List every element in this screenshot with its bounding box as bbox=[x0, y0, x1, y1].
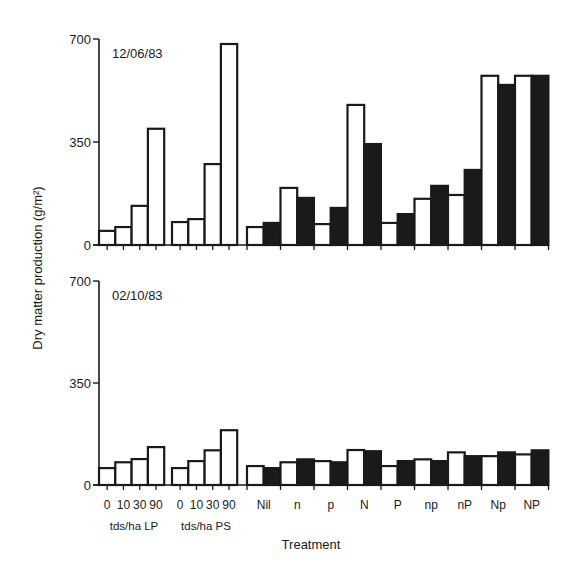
y-tick-label: 0 bbox=[84, 478, 91, 493]
bar-np-open bbox=[415, 459, 432, 485]
bar-P-open bbox=[381, 223, 398, 245]
y-tick-label: 350 bbox=[69, 135, 91, 150]
bar-Np-open bbox=[482, 76, 499, 245]
treatment-label-Np: Np bbox=[491, 498, 507, 512]
treatment-label-Nil: Nil bbox=[257, 498, 271, 512]
bar-Np-filled bbox=[498, 452, 515, 485]
bar-np-open bbox=[415, 199, 432, 245]
treatment-label-nP: nP bbox=[457, 498, 472, 512]
treatment-label-np: np bbox=[425, 498, 439, 512]
bar-rate-tdshaps-10 bbox=[188, 219, 204, 245]
bar-np-filled bbox=[431, 461, 448, 485]
y-axis-label: Dry matter production (g/m²) bbox=[30, 186, 45, 349]
bar-n-open bbox=[281, 188, 298, 245]
bar-rate-tdshaps-30 bbox=[205, 164, 221, 245]
rate-tick-label: 30 bbox=[206, 498, 220, 512]
top-panel: 035070012/06/83 bbox=[69, 32, 548, 253]
bar-P-filled bbox=[398, 461, 415, 485]
bar-n-filled bbox=[297, 459, 314, 485]
bar-rate-tdshalp-0 bbox=[99, 468, 115, 485]
rate-tick-label: 90 bbox=[222, 498, 236, 512]
rate-tick-label: 30 bbox=[133, 498, 147, 512]
bar-N-open bbox=[348, 105, 365, 245]
group-label-lp: tds/ha LP bbox=[110, 520, 159, 532]
bar-P-open bbox=[381, 466, 398, 485]
bar-p-open bbox=[314, 461, 331, 485]
bar-Np-filled bbox=[498, 85, 515, 245]
bar-NP-filled bbox=[532, 450, 549, 485]
bar-N-filled bbox=[364, 144, 381, 245]
rate-tick-label: 0 bbox=[177, 498, 184, 512]
bar-p-filled bbox=[331, 462, 348, 485]
bar-nP-filled bbox=[465, 456, 482, 485]
panel-date-label: 02/10/83 bbox=[112, 288, 163, 303]
x-axis-title: Treatment bbox=[282, 537, 341, 552]
bar-rate-tdshaps-30 bbox=[205, 450, 221, 485]
bar-nP-open bbox=[448, 195, 465, 245]
bar-rate-tdshaps-90 bbox=[221, 44, 237, 245]
bar-rate-tdshaps-90 bbox=[221, 430, 237, 485]
bar-Np-open bbox=[482, 456, 499, 485]
y-tick-label: 350 bbox=[69, 376, 91, 391]
bar-NP-open bbox=[515, 76, 532, 245]
bar-nP-open bbox=[448, 452, 465, 485]
bar-n-open bbox=[281, 462, 298, 485]
treatment-label-P: P bbox=[394, 498, 402, 512]
y-tick-label: 0 bbox=[84, 238, 91, 253]
bar-rate-tdshalp-90 bbox=[148, 447, 164, 485]
group-label-ps: tds/ha PS bbox=[181, 520, 231, 532]
bar-N-open bbox=[348, 450, 365, 485]
treatment-label-n: n bbox=[294, 498, 301, 512]
bar-N-filled bbox=[364, 451, 381, 485]
bar-n-filled bbox=[297, 198, 314, 245]
panel-date-label: 12/06/83 bbox=[112, 46, 163, 61]
bottom-panel: 035070002/10/83 bbox=[69, 274, 548, 493]
bar-NP-filled bbox=[532, 76, 549, 245]
bar-rate-tdshalp-10 bbox=[115, 227, 131, 245]
bar-P-filled bbox=[398, 214, 415, 245]
bar-p-filled bbox=[331, 208, 348, 245]
bar-rate-tdshalp-30 bbox=[132, 206, 148, 245]
rate-tick-label: 90 bbox=[149, 498, 163, 512]
bar-rate-tdshalp-10 bbox=[115, 462, 131, 485]
bar-rate-tdshaps-0 bbox=[172, 468, 188, 485]
bar-p-open bbox=[314, 224, 331, 245]
bar-np-filled bbox=[431, 186, 448, 245]
treatment-label-NP: NP bbox=[523, 498, 540, 512]
rate-tick-label: 10 bbox=[190, 498, 204, 512]
bar-Nil-open bbox=[247, 227, 264, 245]
treatment-label-N: N bbox=[360, 498, 369, 512]
y-tick-label: 700 bbox=[69, 274, 91, 289]
bar-nP-filled bbox=[465, 170, 482, 245]
dry-matter-figure: 035070012/06/83 035070002/10/83 01030900… bbox=[0, 0, 576, 577]
bar-Nil-filled bbox=[264, 223, 281, 245]
bar-rate-tdshalp-30 bbox=[132, 459, 148, 485]
bar-rate-tdshaps-10 bbox=[188, 461, 204, 485]
bar-NP-open bbox=[515, 454, 532, 485]
x-axis-labels: 01030900103090tds/ha LPtds/ha PSNilnpNPn… bbox=[104, 498, 540, 532]
bar-Nil-filled bbox=[264, 468, 281, 485]
bar-rate-tdshaps-0 bbox=[172, 222, 188, 245]
bar-Nil-open bbox=[247, 466, 264, 485]
bar-rate-tdshalp-90 bbox=[148, 129, 164, 245]
rate-tick-label: 10 bbox=[117, 498, 131, 512]
rate-tick-label: 0 bbox=[104, 498, 111, 512]
bar-rate-tdshalp-0 bbox=[99, 231, 115, 245]
treatment-label-p: p bbox=[327, 498, 334, 512]
y-tick-label: 700 bbox=[69, 32, 91, 47]
